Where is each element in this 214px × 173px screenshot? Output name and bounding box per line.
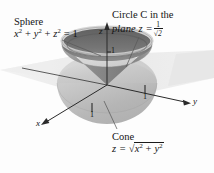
sphere-eq-plus-1: + (22, 28, 33, 39)
sphere-label: Sphere x2 + y2 + z2 = 1 (14, 16, 78, 40)
circle-fraction-denominator: √2 (154, 29, 163, 37)
sphere-eq-equals: = 1 (61, 28, 78, 39)
cone-radicand-y-exponent: 2 (159, 141, 162, 148)
cone-label-title: Cone (112, 131, 164, 143)
y-axis-arrowhead (183, 100, 191, 106)
sphere-equation: x2 + y2 + z2 = 1 (14, 28, 78, 40)
y-axis-tick-label: 1 (143, 92, 147, 101)
math-figure: Sphere x2 + y2 + z2 = 1 Circle C in the … (0, 0, 214, 173)
circle-label-line2: plane z =1√2 (112, 21, 174, 38)
cone-label: Cone z = √x2 + y2 (112, 131, 164, 155)
circle-label: Circle C in the plane z =1√2 (112, 9, 174, 37)
x-axis-arrowhead (41, 118, 49, 125)
circle-radicand: 2 (157, 28, 162, 38)
x-axis-label: x (36, 118, 40, 128)
cone-radicand: x2 + y2 (134, 142, 163, 154)
y-axis-label: y (193, 96, 197, 106)
sphere-eq-plus-2: + (42, 28, 53, 39)
cone-radicand-plus: + (143, 143, 154, 154)
circle-fraction: 1√2 (154, 21, 163, 38)
circle-label-line1: Circle C in the (112, 9, 174, 21)
circle-eq-prefix: plane z = (112, 22, 153, 33)
cone-equation: z = √x2 + y2 (112, 143, 164, 155)
z-axis-label: z (99, 26, 103, 36)
z-axis-tick-label: 1 (111, 46, 115, 55)
x-axis-tick-label: 1 (90, 110, 94, 119)
sphere-label-title: Sphere (14, 16, 78, 28)
cone-eq-prefix: z = (112, 143, 126, 154)
